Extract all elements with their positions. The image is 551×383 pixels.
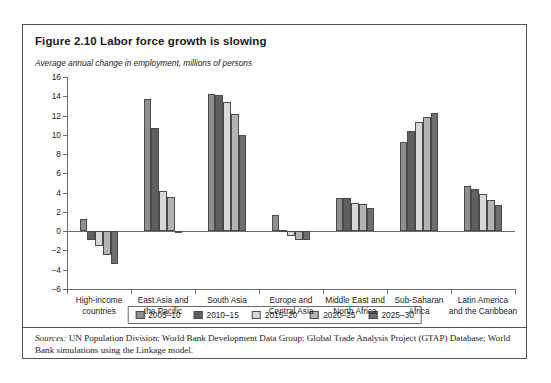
bar	[400, 142, 408, 232]
bar-group	[131, 77, 195, 289]
bar	[431, 113, 439, 232]
legend-label: 2010–15	[207, 310, 239, 320]
y-axis-label: 6	[56, 168, 61, 178]
bar	[272, 215, 280, 231]
category-axis-tick	[451, 289, 452, 294]
category-label-line: and the Caribbean	[440, 306, 526, 317]
bar	[95, 231, 103, 245]
category-axis-tick	[387, 289, 388, 294]
bar	[279, 230, 287, 232]
category-label-line: the Pacific	[120, 306, 206, 317]
bar-group	[387, 77, 451, 289]
bar	[103, 231, 111, 255]
bar	[487, 200, 495, 231]
bar	[208, 94, 216, 231]
bar	[423, 117, 431, 232]
bar	[343, 198, 351, 231]
bar	[471, 189, 479, 231]
bar-group	[195, 77, 259, 289]
bar	[87, 231, 95, 240]
bar	[367, 208, 375, 231]
bar-group	[323, 77, 387, 289]
source-note: Sources: UN Population Division; World B…	[35, 333, 514, 356]
y-axis-label: 14	[52, 91, 61, 101]
y-axis-label: 2	[56, 207, 61, 217]
bar	[223, 102, 231, 231]
bar	[80, 219, 88, 232]
plot-area: −6−4−20246810121416	[67, 77, 515, 289]
bar	[407, 131, 415, 231]
y-axis-label: 0	[56, 226, 61, 236]
bar	[351, 203, 359, 231]
bar	[239, 135, 247, 231]
chart-subtitle: Average annual change in employment, mil…	[35, 58, 252, 68]
y-axis-label: 4	[56, 188, 61, 198]
category-axis-tick	[195, 289, 196, 294]
bar	[464, 186, 472, 231]
y-axis-label: −2	[51, 245, 61, 255]
bar	[231, 114, 239, 232]
y-axis-label: 12	[52, 111, 61, 121]
y-axis-label: 10	[52, 130, 61, 140]
bar	[151, 128, 159, 231]
category-axis-tick	[67, 289, 68, 294]
bar	[215, 95, 223, 231]
category-axis-tick	[515, 289, 516, 294]
category-axis-tick	[259, 289, 260, 294]
bar	[295, 231, 303, 240]
bar	[167, 197, 175, 231]
bar	[111, 231, 119, 264]
bar-group	[259, 77, 323, 289]
category-axis-tick	[131, 289, 132, 294]
source-divider	[23, 327, 526, 328]
source-label: Sources:	[35, 333, 66, 343]
bar	[175, 231, 183, 233]
source-text: UN Population Division; World Bank Devel…	[35, 333, 510, 355]
bar	[159, 191, 167, 231]
y-axis-label: −4	[51, 265, 61, 275]
bar	[359, 204, 367, 231]
bar	[303, 231, 311, 240]
plot-inner: −6−4−20246810121416	[67, 77, 515, 289]
category-label-line: Latin America	[440, 295, 526, 306]
category-label: Latin Americaand the Caribbean	[440, 295, 526, 316]
y-axis-label: 8	[56, 149, 61, 159]
figure-panel: Figure 2.10 Labor force growth is slowin…	[22, 24, 527, 359]
category-axis-tick	[323, 289, 324, 294]
category-axis	[67, 289, 515, 290]
bar-group	[67, 77, 131, 289]
bar	[479, 194, 487, 232]
figure-title: Figure 2.10 Labor force growth is slowin…	[35, 35, 267, 47]
bar	[144, 99, 152, 231]
y-axis-label: 16	[52, 72, 61, 82]
bar	[495, 205, 503, 231]
bar-group	[451, 77, 515, 289]
bar	[415, 122, 423, 231]
bar	[287, 231, 295, 236]
y-axis-label: −6	[51, 284, 61, 294]
bar	[336, 198, 344, 231]
